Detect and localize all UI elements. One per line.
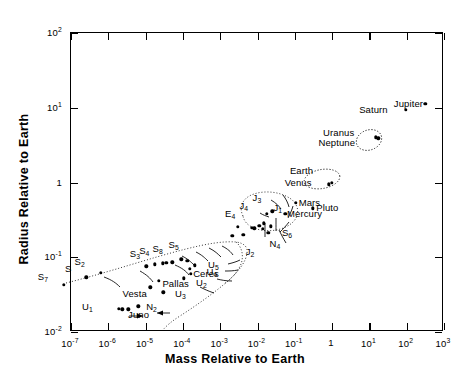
- x-tick: [71, 323, 72, 330]
- x-tick: [146, 323, 147, 330]
- x-tick-top: [369, 33, 370, 40]
- data-point-S6: [269, 225, 272, 228]
- y-tick-label-1: 10-1: [22, 250, 62, 262]
- y-tick-right: [435, 108, 442, 109]
- data-point-Pallas: [157, 279, 160, 282]
- data-point-S3: [145, 264, 148, 267]
- data-point-S8: [165, 261, 168, 264]
- x-tick-label-10: 103: [436, 337, 451, 349]
- y-tick: [71, 183, 78, 184]
- y-tick: [71, 108, 78, 109]
- x-tick: [332, 323, 333, 330]
- data-point-m3: [261, 227, 264, 230]
- data-point-a1: [120, 308, 123, 311]
- x-tick: [258, 323, 259, 330]
- x-tick: [220, 323, 221, 330]
- point-label-E4: E4: [225, 208, 235, 221]
- plot-area: [70, 32, 443, 331]
- y-tick-right: [435, 183, 442, 184]
- data-point-J4: [265, 212, 268, 215]
- point-label-Jupiter: Jupiter: [394, 98, 423, 109]
- data-point-Ceres: [189, 272, 192, 275]
- y-tick-label-2: 1: [22, 176, 62, 187]
- point-label-J4: J4: [239, 199, 248, 212]
- data-point-s1: [161, 262, 164, 265]
- point-label-J2: J2: [246, 245, 255, 258]
- data-point-Earth: [330, 181, 333, 184]
- y-tick: [71, 33, 78, 34]
- data-point-N4: [267, 231, 270, 234]
- data-point-Mars: [294, 201, 297, 204]
- x-tick-top: [407, 33, 408, 40]
- point-label-U3: U3: [175, 288, 186, 301]
- point-label-Earth: Earth: [290, 165, 313, 176]
- x-tick: [407, 323, 408, 330]
- x-tick-top: [332, 33, 333, 40]
- x-tick-top: [183, 33, 184, 40]
- x-tick-top: [108, 33, 109, 40]
- y-tick-right: [435, 257, 442, 258]
- data-point-s3: [185, 259, 188, 262]
- point-label-U2: U2: [196, 276, 207, 289]
- data-point-S4: [153, 263, 156, 266]
- x-tick-label-3: 10-4: [173, 337, 190, 349]
- x-tick-label-9: 102: [398, 337, 413, 349]
- point-label-S2: S2: [75, 256, 85, 269]
- point-label-N2: N2: [146, 300, 157, 313]
- data-point-E4: [236, 225, 239, 228]
- data-point-J1: [262, 221, 265, 224]
- point-label-Ceres: Ceres: [193, 267, 219, 278]
- data-point-S: [85, 276, 88, 279]
- y-tick-right: [435, 33, 442, 34]
- figure: Mass Relative to Earth Radius Relative t…: [0, 0, 470, 376]
- data-point-S5: [179, 258, 182, 261]
- point-label-S3: S3: [130, 247, 140, 260]
- x-tick-top: [146, 33, 147, 40]
- x-axis-title: Mass Relative to Earth: [0, 352, 470, 366]
- y-tick-label-3: 101: [22, 101, 62, 113]
- data-point-Vesta: [149, 286, 152, 289]
- data-point-S7: [62, 283, 65, 286]
- data-point-m4: [242, 233, 245, 236]
- data-point-U3: [162, 291, 165, 294]
- data-point-N2: [136, 304, 139, 307]
- y-tick-label-0: 10-2: [22, 325, 62, 337]
- point-label-S: S: [65, 262, 71, 273]
- point-label-Venus: Venus: [285, 176, 312, 187]
- x-tick: [108, 323, 109, 330]
- point-label-J3: J3: [253, 192, 262, 205]
- data-point-J2: [253, 226, 256, 229]
- point-label-Pallas: Pallas: [162, 277, 188, 288]
- point-label-Saturn: Saturn: [359, 103, 388, 114]
- point-label-S6: S6: [282, 226, 292, 239]
- x-tick-top: [220, 33, 221, 40]
- x-tick-label-4: 10-3: [210, 337, 227, 349]
- data-point-Neptune: [376, 137, 379, 140]
- point-label-N4: N4: [269, 238, 280, 251]
- x-tick: [295, 323, 296, 330]
- y-tick: [71, 332, 78, 333]
- x-tick-label-6: 10-1: [285, 337, 302, 349]
- x-tick-label-2: 10-5: [136, 337, 153, 349]
- point-label-S4: S4: [139, 244, 149, 257]
- point-label-U1: U1: [82, 300, 93, 313]
- data-point-Venus: [327, 182, 330, 185]
- point-label-S5: S5: [169, 238, 179, 251]
- data-point-S2: [99, 271, 102, 274]
- x-tick-top: [444, 33, 445, 40]
- data-point-Jupiter: [424, 102, 427, 105]
- y-tick-label-4: 102: [22, 26, 62, 38]
- data-point-U4: [188, 267, 191, 270]
- point-label-S8: S8: [153, 242, 163, 255]
- x-tick-label-0: 10-7: [61, 337, 78, 349]
- data-point-s2: [171, 261, 174, 264]
- point-label-Neptune: Neptune: [318, 137, 355, 148]
- point-label-S7: S7: [38, 270, 48, 283]
- data-point-m5: [231, 234, 234, 237]
- x-tick-label-1: 10-6: [99, 337, 116, 349]
- point-label-Vesta: Vesta: [123, 288, 147, 299]
- x-tick-label-7: 1: [328, 337, 333, 348]
- x-tick: [369, 323, 370, 330]
- x-tick-label-8: 101: [361, 337, 376, 349]
- x-tick-label-5: 10-2: [248, 337, 265, 349]
